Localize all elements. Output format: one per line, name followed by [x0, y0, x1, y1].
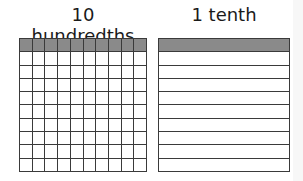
- hundredths-cell: [96, 92, 109, 104]
- tenth-cell: [159, 159, 289, 172]
- hundredths-cell: [84, 119, 97, 131]
- hundredths-cell: [122, 92, 135, 104]
- hundredths-cell: [96, 105, 109, 117]
- hundredths-cell: [109, 105, 122, 117]
- hundredths-cell: [84, 159, 97, 172]
- tenth-cell: [159, 79, 289, 91]
- hundredths-cell: [109, 92, 122, 104]
- hundredths-row: [20, 66, 146, 79]
- hundredths-cell: [33, 105, 46, 117]
- hundredths-shaded-cell: [45, 39, 58, 51]
- tenth-row: [159, 132, 289, 145]
- hundredths-cell: [20, 159, 33, 172]
- hundredths-cell: [109, 52, 122, 64]
- hundredths-shaded-cell: [134, 39, 146, 51]
- hundredths-row: [20, 79, 146, 92]
- hundredths-cell: [45, 92, 58, 104]
- hundredths-cell: [122, 52, 135, 64]
- hundredths-cell: [58, 119, 71, 131]
- tenth-row: [159, 39, 289, 52]
- hundredths-cell: [20, 79, 33, 91]
- tenth-row: [159, 159, 289, 172]
- hundredths-cell: [71, 132, 84, 144]
- hundredths-cell: [84, 132, 97, 144]
- hundredths-cell: [96, 66, 109, 78]
- hundredths-cell: [96, 145, 109, 157]
- hundredths-cell: [96, 119, 109, 131]
- hundredths-cell: [122, 145, 135, 157]
- hundredths-row: [20, 159, 146, 172]
- hundredths-cell: [58, 79, 71, 91]
- hundredths-cell: [134, 52, 146, 64]
- tenth-cell: [159, 66, 289, 78]
- hundredths-shaded-cell: [96, 39, 109, 51]
- hundredths-row: [20, 145, 146, 158]
- hundredths-cell: [122, 119, 135, 131]
- hundredths-cell: [71, 79, 84, 91]
- hundredths-cell: [109, 79, 122, 91]
- hundredths-cell: [33, 145, 46, 157]
- hundredths-cell: [122, 159, 135, 172]
- hundredths-cell: [71, 92, 84, 104]
- hundredths-shaded-cell: [20, 39, 33, 51]
- hundredths-cell: [71, 105, 84, 117]
- hundredths-cell: [109, 145, 122, 157]
- hundredths-cell: [71, 52, 84, 64]
- hundredths-cell: [109, 66, 122, 78]
- hundredths-cell: [109, 119, 122, 131]
- hundredths-cell: [33, 119, 46, 131]
- tenth-grid: [158, 38, 290, 172]
- hundredths-cell: [45, 79, 58, 91]
- hundredths-grid: [19, 38, 147, 172]
- tenth-row: [159, 119, 289, 132]
- hundredths-cell: [33, 159, 46, 172]
- tenth-cell: [159, 145, 289, 157]
- hundredths-shaded-cell: [33, 39, 46, 51]
- hundredths-cell: [96, 52, 109, 64]
- hundredths-cell: [71, 66, 84, 78]
- hundredths-shaded-cell: [109, 39, 122, 51]
- hundredths-cell: [58, 66, 71, 78]
- hundredths-cell: [71, 119, 84, 131]
- hundredths-cell: [71, 145, 84, 157]
- tenth-row: [159, 79, 289, 92]
- hundredths-cell: [58, 132, 71, 144]
- hundredths-cell: [84, 52, 97, 64]
- hundredths-cell: [134, 79, 146, 91]
- hundredths-cell: [20, 119, 33, 131]
- hundredths-cell: [20, 132, 33, 144]
- hundredths-cell: [58, 145, 71, 157]
- tenth-cell: [159, 132, 289, 144]
- hundredths-cell: [96, 132, 109, 144]
- hundredths-cell: [134, 119, 146, 131]
- hundredths-cell: [109, 132, 122, 144]
- hundredths-cell: [134, 105, 146, 117]
- hundredths-cell: [45, 66, 58, 78]
- hundredths-row: [20, 39, 146, 52]
- hundredths-cell: [84, 145, 97, 157]
- hundredths-cell: [58, 105, 71, 117]
- hundredths-cell: [134, 159, 146, 172]
- tenth-title: 1 tenth: [158, 4, 290, 25]
- hundredths-cell: [45, 105, 58, 117]
- tenth-cell: [159, 105, 289, 117]
- hundredths-cell: [134, 92, 146, 104]
- hundredths-cell: [122, 66, 135, 78]
- hundredths-row: [20, 119, 146, 132]
- tenth-cell: [159, 52, 289, 64]
- hundredths-cell: [33, 92, 46, 104]
- hundredths-cell: [96, 159, 109, 172]
- hundredths-cell: [84, 105, 97, 117]
- hundredths-cell: [122, 79, 135, 91]
- hundredths-cell: [109, 159, 122, 172]
- hundredths-cell: [134, 145, 146, 157]
- hundredths-cell: [20, 92, 33, 104]
- hundredths-cell: [33, 52, 46, 64]
- hundredths-cell: [84, 92, 97, 104]
- tenth-cell: [159, 119, 289, 131]
- hundredths-row: [20, 52, 146, 65]
- tenth-row: [159, 66, 289, 79]
- hundredths-cell: [134, 66, 146, 78]
- hundredths-cell: [45, 145, 58, 157]
- page-edge: [293, 0, 303, 181]
